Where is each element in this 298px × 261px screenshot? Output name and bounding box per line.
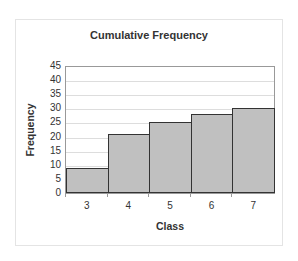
y-tick-label: 25 [37,117,61,127]
x-tick-mark [65,194,66,197]
x-tick-mark [107,194,108,197]
y-tick-label: 15 [37,146,61,156]
y-tick-label: 5 [37,174,61,184]
y-tick-label: 35 [37,89,61,99]
chart-title: Cumulative Frequency [0,29,298,41]
y-tick-label: 40 [37,75,61,85]
x-axis-label: Class [65,220,275,232]
bar-5 [149,122,192,193]
x-tick-label: 3 [66,200,108,211]
gridline [66,81,274,82]
x-tick-mark [148,194,149,197]
x-tick-mark [190,194,191,197]
gridline [66,95,274,96]
x-tick-label: 7 [232,200,274,211]
y-tick-label: 45 [37,61,61,71]
y-tick-label: 0 [37,188,61,198]
x-tick-mark [231,194,232,197]
x-tick-label: 5 [149,200,191,211]
bar-7 [232,108,275,193]
bar-6 [191,114,234,193]
y-axis-label: Frequency [24,103,36,156]
plot-area [65,66,275,194]
bar-4 [108,134,151,193]
y-tick-label: 30 [37,103,61,113]
x-tick-label: 4 [107,200,149,211]
y-tick-label: 20 [37,132,61,142]
x-tick-label: 6 [191,200,233,211]
bar-3 [66,168,109,193]
y-tick-label: 10 [37,160,61,170]
